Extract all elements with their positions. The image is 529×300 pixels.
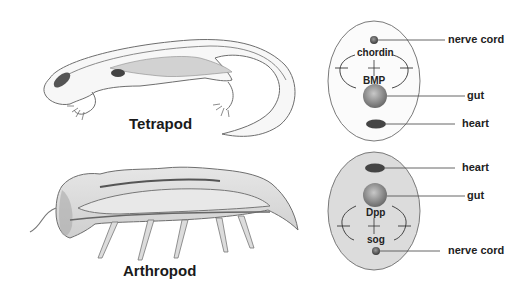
chordin-label: chordin [357, 47, 394, 58]
arthropod-nerve-cord-label: nerve cord [448, 244, 504, 256]
arthropod-heart-label: heart [462, 161, 489, 173]
dpp-label: Dpp [366, 207, 385, 218]
sog-label: sog [367, 234, 385, 245]
heart-ellipse [365, 164, 385, 173]
nerve-cord-dot [370, 36, 378, 44]
gut-sphere [363, 84, 387, 108]
arthropod-gut-label: gut [467, 189, 484, 201]
tetrapod-nerve-cord-label: nerve cord [448, 33, 504, 45]
heart-ellipse [366, 120, 386, 129]
tetrapod-gut-label: gut [467, 89, 484, 101]
arthropod-cross-section [328, 152, 465, 270]
bmp-label: BMP [363, 75, 385, 86]
nerve-cord-dot [372, 247, 380, 255]
tetrapod-heart-label: heart [462, 117, 489, 129]
tetrapod-cross-section [328, 21, 465, 141]
arthropod-label: Arthropod [123, 262, 196, 279]
tetrapod-label: Tetrapod [129, 115, 192, 132]
gut-sphere [363, 183, 387, 207]
arthropod-illustration [30, 167, 298, 260]
